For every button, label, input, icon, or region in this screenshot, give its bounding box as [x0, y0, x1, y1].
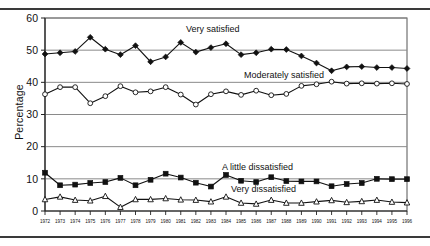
data-point-marker	[163, 85, 168, 90]
y-tick-label: 60	[26, 12, 38, 24]
data-point-marker	[405, 177, 410, 182]
data-point-marker	[43, 170, 48, 175]
data-point-marker	[239, 92, 244, 97]
x-tick-label: 1974	[70, 219, 81, 224]
y-tick-label: 50	[26, 44, 38, 56]
data-point-marker	[133, 183, 138, 188]
y-tick-label: 40	[26, 76, 38, 88]
data-point-marker	[284, 179, 289, 184]
x-tick-label: 1973	[55, 219, 66, 224]
x-tick-label: 1980	[161, 219, 172, 224]
data-point-marker	[374, 81, 379, 86]
data-point-marker	[118, 175, 123, 180]
series-annotation: A little dissatisfied	[222, 162, 293, 172]
data-point-marker	[405, 82, 410, 87]
data-point-marker	[224, 173, 229, 178]
data-point-marker	[43, 92, 48, 97]
data-point-marker	[329, 184, 334, 189]
data-point-marker	[148, 89, 153, 94]
y-tick-label: 10	[26, 173, 38, 185]
data-point-marker	[148, 177, 153, 182]
data-point-marker	[299, 83, 304, 88]
x-tick-label: 1992	[342, 219, 353, 224]
data-point-marker	[359, 181, 364, 186]
data-point-marker	[344, 182, 349, 187]
data-point-marker	[193, 180, 198, 185]
data-point-marker	[193, 102, 198, 107]
x-tick-label: 1987	[266, 219, 277, 224]
x-tick-label: 1996	[402, 219, 413, 224]
data-point-marker	[329, 79, 334, 84]
data-point-marker	[390, 177, 395, 182]
data-point-marker	[374, 176, 379, 181]
data-point-marker	[224, 89, 229, 94]
data-point-marker	[88, 181, 93, 186]
line-chart-figure: Percentage 01020304050601972197319741975…	[0, 10, 430, 236]
data-point-marker	[118, 84, 123, 89]
data-point-marker	[178, 175, 183, 180]
data-point-marker	[133, 90, 138, 95]
data-point-marker	[103, 94, 108, 99]
data-point-marker	[239, 178, 244, 183]
data-point-marker	[73, 85, 78, 90]
y-axis-title: Percentage	[13, 57, 25, 167]
x-tick-label: 1981	[176, 219, 187, 224]
x-tick-label: 1979	[145, 219, 156, 224]
y-tick-label: 20	[26, 140, 38, 152]
data-point-marker	[314, 82, 319, 87]
data-point-marker	[163, 171, 168, 176]
x-tick-label: 1993	[357, 219, 368, 224]
chart-plot-area: 0102030405060197219731974197519761977197…	[0, 10, 430, 236]
data-point-marker	[314, 179, 319, 184]
x-tick-label: 1978	[130, 219, 141, 224]
x-tick-label: 1982	[191, 219, 202, 224]
y-tick-label: 30	[26, 108, 38, 120]
data-point-marker	[344, 81, 349, 86]
data-point-marker	[209, 92, 214, 97]
x-tick-label: 1994	[372, 219, 383, 224]
x-tick-label: 1975	[85, 219, 96, 224]
x-tick-label: 1990	[311, 219, 322, 224]
x-tick-label: 1986	[251, 219, 262, 224]
data-point-marker	[103, 180, 108, 185]
data-point-marker	[269, 93, 274, 98]
series-annotation: Moderately satisfied	[244, 70, 324, 80]
data-point-marker	[178, 92, 183, 97]
data-point-marker	[73, 182, 78, 187]
x-tick-label: 1976	[100, 219, 111, 224]
x-tick-label: 1972	[40, 219, 51, 224]
data-point-marker	[269, 175, 274, 180]
x-tick-label: 1988	[281, 219, 292, 224]
x-tick-label: 1995	[387, 219, 398, 224]
page-rule-bottom	[0, 236, 430, 238]
data-point-marker	[299, 179, 304, 184]
x-tick-label: 1989	[296, 219, 307, 224]
series-annotation: Very satisfied	[186, 24, 240, 34]
data-point-marker	[390, 81, 395, 86]
data-point-marker	[359, 81, 364, 86]
data-point-marker	[58, 85, 63, 90]
x-tick-label: 1977	[115, 219, 126, 224]
x-tick-label: 1984	[221, 219, 232, 224]
data-point-marker	[254, 88, 259, 93]
series-annotation: Very dissatisfied	[231, 184, 296, 194]
data-point-marker	[209, 184, 214, 189]
x-tick-label: 1991	[326, 219, 337, 224]
y-tick-label: 0	[32, 205, 38, 217]
x-tick-label: 1985	[236, 219, 247, 224]
data-point-marker	[284, 92, 289, 97]
data-point-marker	[58, 183, 63, 188]
x-tick-label: 1983	[206, 219, 217, 224]
data-point-marker	[88, 101, 93, 106]
